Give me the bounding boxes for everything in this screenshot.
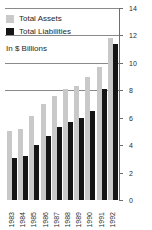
y-axis-tick-label: 0 — [129, 197, 133, 204]
bar-group — [18, 8, 28, 200]
bar-group — [63, 8, 73, 200]
y-axis-tick-label: 4 — [129, 142, 133, 149]
y-axis-tick — [119, 200, 123, 201]
x-axis-label: 1991 — [98, 212, 105, 228]
y-axis-tick — [119, 145, 123, 146]
y-axis-tick — [119, 35, 123, 36]
x-axis-label: 1987 — [53, 212, 60, 228]
bar-liabilities — [57, 127, 62, 200]
y-axis-tick-label: 14 — [129, 5, 137, 12]
bar-liabilities — [46, 136, 51, 200]
x-axis-label: 1985 — [30, 212, 37, 228]
bar-group — [74, 8, 84, 200]
x-axis-label: 1983 — [8, 212, 15, 228]
bar-liabilities — [102, 89, 107, 200]
bar-group — [97, 8, 107, 200]
x-axis-label: 1986 — [42, 212, 49, 228]
bar-chart: Total Assets Total Liabilities In $ Bill… — [0, 0, 152, 230]
x-axis-label: 1990 — [86, 212, 93, 228]
plot-area: 02468101214 1983198419851986198719881989… — [5, 0, 122, 230]
x-axis-label: 1989 — [75, 212, 82, 228]
y-axis-tick — [119, 63, 123, 64]
bar-liabilities — [34, 145, 39, 200]
y-axis-tick-label: 8 — [129, 87, 133, 94]
y-axis-tick-label: 6 — [129, 115, 133, 122]
y-axis-tick-label: 12 — [129, 32, 137, 39]
y-axis-tick-label: 2 — [129, 170, 133, 177]
y-axis-tick — [119, 173, 123, 174]
bar-liabilities — [90, 111, 95, 200]
bar-liabilities — [12, 158, 17, 201]
bar-group — [108, 8, 118, 200]
x-axis-label: 1992 — [109, 212, 116, 228]
bar-group — [85, 8, 95, 200]
x-axis-label: 1984 — [19, 212, 26, 228]
bar-group — [29, 8, 39, 200]
bar-liabilities — [79, 118, 84, 200]
bar-group — [7, 8, 17, 200]
x-axis-label: 1988 — [64, 212, 71, 228]
bar-liabilities — [68, 122, 73, 200]
bar-liabilities — [23, 156, 28, 200]
y-axis-tick — [119, 90, 123, 91]
y-axis-tick-label: 10 — [129, 60, 137, 67]
y-axis-line — [119, 8, 120, 200]
y-axis-tick — [119, 8, 123, 9]
bar-liabilities — [113, 44, 118, 200]
y-axis-tick — [119, 118, 123, 119]
bar-group — [41, 8, 51, 200]
bar-group — [52, 8, 62, 200]
